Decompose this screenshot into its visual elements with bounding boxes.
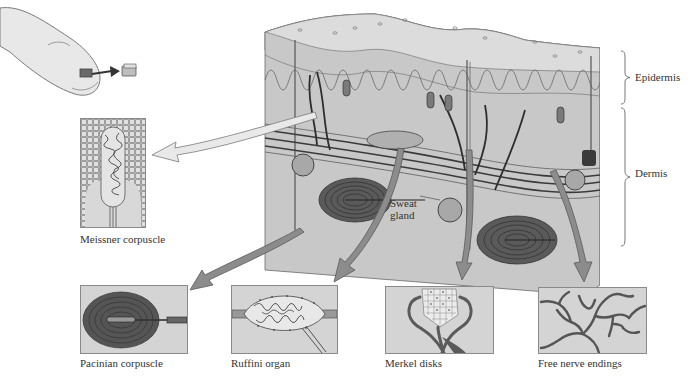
dermis-label: Dermis xyxy=(635,167,667,179)
fingertip-illustration xyxy=(0,0,140,100)
free-nerve-endings-inset xyxy=(538,287,647,354)
free-nerve-endings-label: Free nerve endings xyxy=(538,357,622,369)
epidermis-brace xyxy=(620,50,632,105)
sweat-gland-label: Sweat gland xyxy=(390,197,417,221)
epidermis-label: Epidermis xyxy=(635,71,680,83)
ruffini-organ-inset xyxy=(231,285,338,354)
meissner-corpuscle-label: Meissner corpuscle xyxy=(80,233,165,245)
sweat-gland-label-line1: Sweat xyxy=(390,197,417,209)
pacinian-corpuscle-label: Pacinian corpuscle xyxy=(80,357,163,369)
skin-cross-section xyxy=(255,0,600,300)
sweat-gland-label-line2: gland xyxy=(390,209,417,221)
merkel-disks-inset xyxy=(385,286,494,354)
pacinian-corpuscle-inset xyxy=(80,285,188,354)
dermis-brace xyxy=(620,107,632,247)
meissner-corpuscle-inset xyxy=(80,118,146,228)
ruffini-organ-label: Ruffini organ xyxy=(231,357,290,369)
merkel-disks-label: Merkel disks xyxy=(385,357,442,369)
